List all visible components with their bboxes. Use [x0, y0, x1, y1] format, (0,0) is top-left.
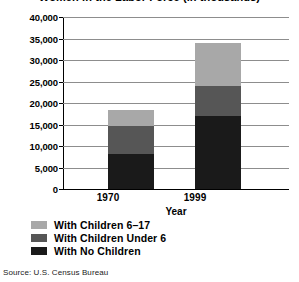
chart-legend: With Children 6–17 With Children Under 6… — [31, 218, 291, 257]
legend-label: With Children 6–17 — [54, 219, 150, 231]
y-tick-label: 20,000 — [30, 98, 58, 109]
x-tick-label-1970: 1970 — [78, 192, 138, 203]
gridline — [63, 103, 289, 104]
y-tick-label: 5,000 — [35, 162, 58, 173]
legend-swatch-icon — [31, 247, 47, 255]
legend-swatch-icon — [31, 221, 47, 229]
bar-segment — [108, 110, 154, 126]
x-tick-label-1999: 1999 — [165, 192, 225, 203]
legend-item-with-no-children[interactable]: With No Children — [31, 244, 291, 257]
legend-item-with-children-6-17[interactable]: With Children 6–17 — [31, 218, 291, 231]
legend-swatch-icon — [31, 234, 47, 242]
plot-area — [63, 17, 289, 189]
y-tick-label: 30,000 — [30, 55, 58, 66]
gridline — [63, 82, 289, 83]
gridline — [63, 168, 289, 169]
x-axis-title: Year — [63, 206, 289, 217]
y-tick-label: 10,000 — [30, 141, 58, 152]
y-tick-label: 15,000 — [30, 119, 58, 130]
x-axis-line — [63, 189, 289, 190]
gridline — [63, 146, 289, 147]
y-tick-label: 40,000 — [30, 12, 58, 23]
gridline — [63, 125, 289, 126]
source-note: Source: U.S. Census Bureau — [3, 268, 108, 277]
y-axis-tick-labels: 40,000 35,000 30,000 25,000 20,000 15,00… — [0, 17, 63, 189]
y-tick-label: 25,000 — [30, 76, 58, 87]
y-tick-label: 0 — [53, 184, 58, 195]
gridline — [63, 60, 289, 61]
legend-label: With No Children — [54, 245, 141, 257]
gridline — [63, 39, 289, 40]
legend-label: With Children Under 6 — [54, 232, 166, 244]
bar-segment — [108, 154, 154, 189]
bar-1970[interactable] — [108, 110, 154, 189]
bar-segment — [195, 86, 241, 116]
y-tick-label: 35,000 — [30, 33, 58, 44]
bar-segment — [108, 126, 154, 154]
bar-segment — [195, 116, 241, 189]
gridline — [63, 17, 289, 18]
chart-title: Women in the Labor Force (in thousands) — [0, 0, 299, 3]
legend-item-with-children-under-6[interactable]: With Children Under 6 — [31, 231, 291, 244]
bar-1999[interactable] — [195, 43, 241, 189]
chart-figure: Women in the Labor Force (in thousands) … — [0, 0, 299, 282]
bar-segment — [195, 43, 241, 86]
